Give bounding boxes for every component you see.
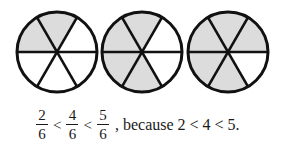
fraction-circles-diagram xyxy=(0,0,285,104)
comparison-statement: 2 6 < 4 6 < 5 6 , because 2 < 4 < 5. xyxy=(34,108,240,142)
numerator: 4 xyxy=(67,108,79,124)
less-than-sign: < xyxy=(53,117,61,134)
fraction-circle-1 xyxy=(17,12,97,92)
fraction-4-6: 4 6 xyxy=(66,108,78,142)
fraction-5-6: 5 6 xyxy=(97,108,109,142)
less-than-sign: < xyxy=(83,117,91,134)
fraction-circle-3 xyxy=(188,12,268,92)
explanation-text: , because 2 < 4 < 5. xyxy=(115,116,240,134)
numerator: 5 xyxy=(97,108,109,124)
denominator: 6 xyxy=(38,125,46,142)
fraction-2-6: 2 6 xyxy=(36,108,48,142)
denominator: 6 xyxy=(69,125,77,142)
numerator: 2 xyxy=(36,108,48,124)
fraction-circle-2 xyxy=(102,12,182,92)
denominator: 6 xyxy=(99,125,107,142)
